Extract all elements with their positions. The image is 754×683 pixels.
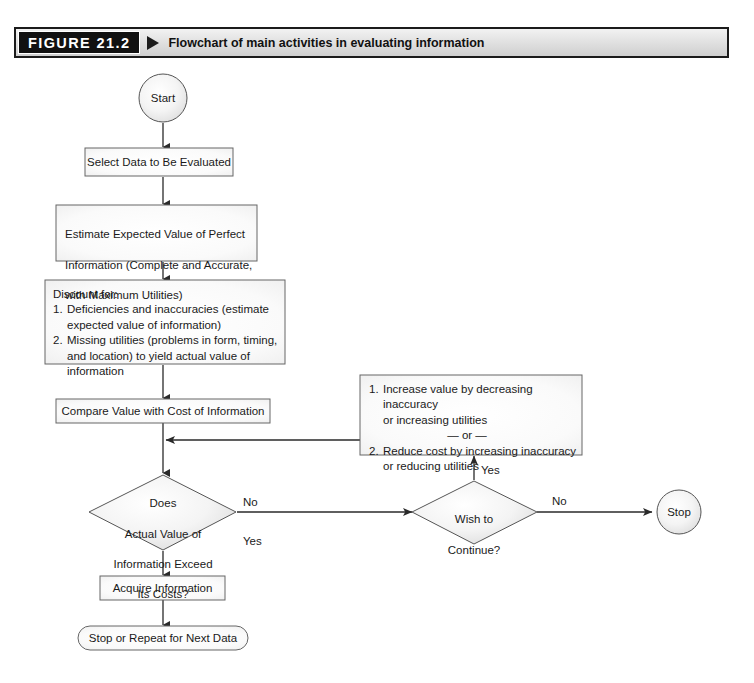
discount-item-2-number: 2.	[53, 333, 67, 379]
discount-item-2-line3: information	[67, 365, 124, 377]
node-discount-label: Discount for: 1. Deficiencies and inaccu…	[53, 287, 279, 379]
node-adjust-label: 1. Increase value by decreasing inaccura…	[369, 382, 577, 474]
adjust-item-2: 2. Reduce cost by increasing inaccuracy …	[369, 444, 577, 475]
adjust-separator: — or —	[369, 428, 577, 443]
adjust-item-1-line1: Increase value by decreasing inaccuracy	[383, 383, 533, 410]
edge-label-decision1-yes: Yes	[243, 534, 262, 549]
adjust-item-2-line1: Reduce cost by increasing inaccuracy	[383, 445, 576, 457]
edge-label-decision2-no: No	[552, 494, 567, 509]
figure-page: FIGURE 21.2 Flowchart of main activities…	[0, 0, 754, 683]
discount-item-2-line2: and location) to yield actual value of	[67, 350, 250, 362]
discount-item-2-line1: Missing utilities (problems in form, tim…	[67, 334, 277, 346]
node-acquire-label: Acquire Information	[100, 581, 225, 596]
node-decision1-line1: Does	[89, 496, 237, 511]
discount-item-1-line1: Deficiencies and inaccuracies (estimate	[67, 303, 269, 315]
node-discount-heading: Discount for:	[53, 287, 279, 302]
adjust-item-1-number: 1.	[369, 382, 383, 428]
discount-item-2: 2. Missing utilities (problems in form, …	[53, 333, 279, 379]
node-decision1-line3: Information Exceed	[89, 557, 237, 572]
discount-item-1: 1. Deficiencies and inaccuracies (estima…	[53, 302, 279, 333]
adjust-item-1-line2: or increasing utilities	[383, 414, 487, 426]
discount-item-1-line2: expected value of information)	[67, 319, 221, 331]
node-decision1-label: Does Actual Value of Information Exceed …	[89, 481, 237, 618]
adjust-item-2-number: 2.	[369, 444, 383, 475]
node-start-label: Start	[139, 91, 187, 106]
node-compare-label: Compare Value with Cost of Information	[56, 404, 270, 419]
discount-item-1-number: 1.	[53, 302, 67, 333]
node-stop-label: Stop	[657, 505, 701, 520]
node-decision2-label: Wish to Continue?	[412, 497, 536, 573]
adjust-item-1: 1. Increase value by decreasing inaccura…	[369, 382, 577, 428]
node-decision2-line2: Continue?	[412, 543, 536, 558]
node-select-data-label: Select Data to Be Evaluated	[85, 155, 233, 170]
node-stop-repeat-label: Stop or Repeat for Next Data	[78, 631, 248, 646]
node-decision2-line1: Wish to	[412, 512, 536, 527]
edge-label-decision2-yes: Yes	[481, 463, 500, 478]
node-estimate-line2: Information (Complete and Accurate,	[65, 258, 253, 273]
node-decision1-line2: Actual Value of	[89, 527, 237, 542]
adjust-item-2-line2: or reducing utilities	[383, 460, 479, 472]
edge-label-decision1-no: No	[243, 495, 258, 510]
node-estimate-line1: Estimate Expected Value of Perfect	[65, 227, 253, 242]
